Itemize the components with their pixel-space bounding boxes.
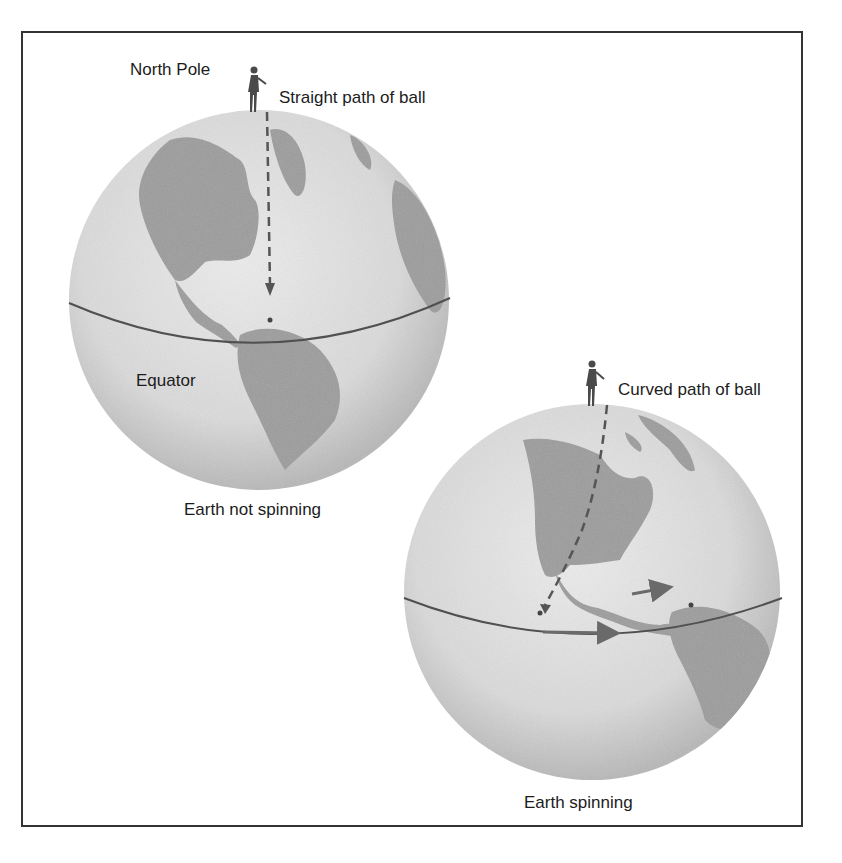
target-dot-2: [689, 603, 694, 608]
landing-dot: [538, 611, 543, 616]
caption-earth-spinning: Earth spinning: [524, 793, 633, 813]
rotation-arrow-lower-icon: [543, 632, 612, 633]
diagram-canvas: North Pole Straight path of ball Equator…: [0, 0, 842, 863]
globe-spinning: [404, 404, 782, 780]
label-equator: Equator: [136, 371, 196, 391]
diagram-svg: [0, 0, 842, 863]
target-dot-1: [268, 318, 273, 323]
label-curved-path: Curved path of ball: [618, 380, 761, 400]
label-straight-path: Straight path of ball: [279, 88, 425, 108]
label-north-pole: North Pole: [130, 60, 210, 80]
caption-earth-not-spinning: Earth not spinning: [184, 500, 321, 520]
person-icon-spinning-globe: [586, 361, 604, 407]
person-icon-north-pole: [248, 67, 266, 113]
globe-not-spinning: [69, 110, 450, 490]
